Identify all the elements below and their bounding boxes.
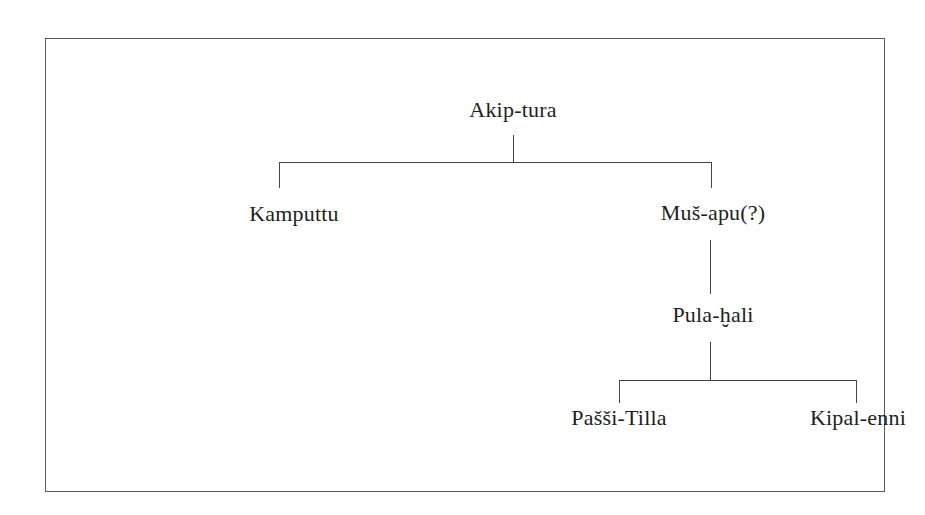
figure-page: Akip-tura Kamputtu Muš-apu(?) Pula-ḫali … — [0, 0, 925, 515]
tree-node-passi-tilla: Pašši-Tilla — [571, 405, 667, 431]
connector-generation4-sibling-bar — [619, 380, 856, 381]
tree-node-pula-hali: Pula-ḫali — [672, 302, 753, 328]
tree-node-akip-tura: Akip-tura — [469, 97, 556, 123]
connector-akip-tura-stem — [513, 135, 514, 162]
connector-generation1-sibling-bar — [279, 162, 712, 163]
connector-stub-kipal-enni — [856, 380, 857, 403]
connector-mus-apu-to-pula-hali — [710, 240, 711, 294]
connector-pula-hali-stem — [710, 342, 711, 380]
connector-stub-passi-tilla — [619, 380, 620, 403]
figure-frame: Akip-tura Kamputtu Muš-apu(?) Pula-ḫali … — [45, 38, 885, 492]
tree-node-kamputtu: Kamputtu — [249, 201, 339, 227]
tree-node-mus-apu: Muš-apu(?) — [661, 200, 766, 226]
connector-stub-kamputtu — [279, 162, 280, 188]
tree-node-kipal-enni: Kipal-enni — [810, 405, 906, 431]
connector-stub-mus-apu — [711, 162, 712, 188]
